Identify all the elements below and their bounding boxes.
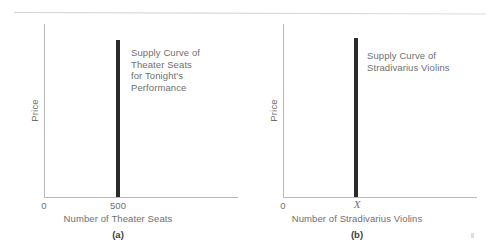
chart-panel-b: Price 0 X Number of Stradivarius Violins… (249, 0, 498, 250)
x-axis-title-a: Number of Theater Seats (38, 213, 198, 224)
panel-caption-b: (b) (337, 229, 377, 240)
x-tick-origin-a: 0 (34, 200, 54, 211)
y-axis-label-a: Price (29, 91, 40, 131)
y-axis-label-b: Price (268, 91, 279, 131)
scan-artifact-speck (471, 233, 474, 238)
x-tick-x-b: X (337, 198, 377, 210)
annotation-panel-b: Supply Curve of Stradivarius Violins (367, 50, 489, 73)
supply-curve-theater-seats (116, 40, 120, 197)
annotation-panel-a: Supply Curve of Theater Seats for Tonigh… (131, 47, 243, 93)
panel-caption-a: (a) (98, 229, 138, 240)
x-tick-500-a: 500 (98, 200, 138, 211)
x-axis-line-b (283, 197, 477, 198)
x-axis-line-a (44, 197, 238, 198)
y-axis-line-a (44, 24, 45, 198)
x-axis-title-b: Number of Stradivarius Violins (267, 213, 447, 224)
x-tick-origin-b: 0 (273, 200, 293, 211)
supply-curve-stradivarius-violins (354, 38, 358, 197)
y-axis-line-b (283, 24, 284, 198)
chart-panel-a: Price 0 500 Number of Theater Seats (a) … (0, 0, 249, 250)
